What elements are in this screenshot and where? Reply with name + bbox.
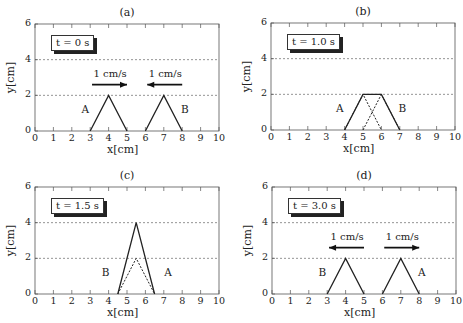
x-tick-label: 9	[435, 295, 441, 306]
x-axis-label: x[cm]	[344, 306, 375, 319]
y-tick-label: 2	[262, 251, 268, 262]
y-tick-label: 0	[262, 287, 268, 298]
x-tick-label: 6	[379, 295, 385, 306]
wave-label-b: B	[319, 266, 327, 278]
x-tick-label: 5	[361, 295, 367, 306]
panel-title: (d)	[344, 169, 384, 182]
wave-b-line	[327, 258, 364, 294]
x-tick-label: 10	[450, 295, 462, 306]
speed-label: 1 cm/s	[331, 231, 364, 242]
wave-a-line	[382, 258, 419, 294]
y-axis-label: y[cm]	[241, 224, 254, 255]
x-tick-label: 7	[398, 295, 404, 306]
x-tick-label: 0	[269, 295, 275, 306]
y-tick-label: 6	[262, 180, 268, 191]
plot-area	[0, 0, 463, 323]
x-tick-label: 4	[343, 295, 349, 306]
y-tick-label: 4	[262, 216, 268, 227]
wave-label-a: A	[418, 266, 426, 278]
x-tick-label: 2	[306, 295, 312, 306]
arrow-head-icon	[412, 245, 419, 251]
speed-label: 1 cm/s	[386, 231, 419, 242]
x-tick-label: 1	[287, 295, 293, 306]
x-tick-label: 8	[416, 295, 422, 306]
x-tick-label: 3	[324, 295, 330, 306]
arrow-head-icon	[329, 245, 336, 251]
time-label: t = 3.0 s	[288, 198, 341, 214]
